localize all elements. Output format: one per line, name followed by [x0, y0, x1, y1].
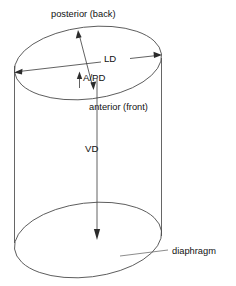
posterior-label: posterior (back)	[51, 9, 116, 19]
cylinder-diagram: LD A/PD posterior (back) anterior (front…	[0, 0, 236, 286]
figure-canvas: LD A/PD posterior (back) anterior (front…	[0, 0, 236, 286]
diaphragm-label: diaphragm	[172, 246, 216, 256]
ld-label: LD	[104, 53, 116, 64]
diaphragm-ellipse	[10, 194, 166, 285]
anterior-label: anterior (front)	[89, 102, 148, 112]
top-ellipse	[10, 18, 166, 107]
apd-label: A/PD	[83, 72, 105, 83]
vd-label: VD	[85, 143, 98, 154]
apd-tick-arrow	[77, 72, 82, 89]
diaphragm-leader-line	[120, 250, 168, 256]
